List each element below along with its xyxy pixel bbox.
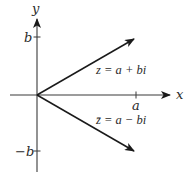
y-tick-pos-label: b <box>24 30 32 45</box>
x-tick-label: a <box>132 98 140 113</box>
y-tick-neg-label: −b <box>15 144 34 159</box>
diagram-canvas: y x b −b a z = a + bi z̄ = a − bi <box>0 0 192 175</box>
y-axis-label: y <box>31 1 40 16</box>
vector-z-label: z = a + bi <box>95 63 147 77</box>
vector-z-conjugate-label: z̄ = a − bi <box>95 113 147 127</box>
x-axis-label: x <box>176 87 184 102</box>
complex-plane-diagram: y x b −b a z = a + bi z̄ = a − bi <box>0 0 192 175</box>
